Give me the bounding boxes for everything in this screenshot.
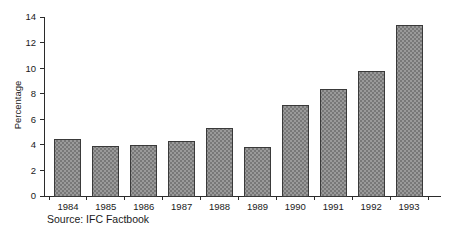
bar-1987 — [169, 142, 195, 196]
bar-chart-figure: 02468101214 1984198519861987198819891990… — [0, 0, 458, 233]
chart-canvas: 02468101214 1984198519861987198819891990… — [0, 0, 458, 233]
y-tick-label: 4 — [31, 139, 36, 150]
y-axis-title: Percentage — [12, 81, 23, 130]
x-tick-label-1986: 1986 — [133, 201, 154, 212]
y-tick-label: 6 — [31, 114, 36, 125]
x-tick-label-1989: 1989 — [247, 201, 268, 212]
x-tick-label-1987: 1987 — [171, 201, 192, 212]
bar-1991 — [320, 90, 346, 196]
y-tick-label: 0 — [31, 190, 36, 201]
chart-background — [0, 0, 458, 233]
bar-1988 — [207, 129, 233, 196]
x-tick-label-1990: 1990 — [285, 201, 306, 212]
y-tick-label: 10 — [25, 63, 36, 74]
bar-1986 — [131, 146, 157, 197]
x-tick-label-1984: 1984 — [57, 201, 78, 212]
bar-1992 — [358, 71, 384, 196]
y-tick-label: 8 — [31, 88, 36, 99]
y-tick-label: 12 — [25, 37, 36, 48]
bar-1993 — [396, 25, 422, 196]
bar-1984 — [55, 140, 81, 196]
x-tick-label-1993: 1993 — [398, 201, 419, 212]
y-tick-label: 2 — [31, 165, 36, 176]
bar-1989 — [244, 147, 270, 196]
bar-1985 — [93, 147, 119, 196]
bar-1990 — [282, 105, 308, 196]
x-tick-label-1992: 1992 — [361, 201, 382, 212]
x-tick-label-1988: 1988 — [209, 201, 230, 212]
source-note: Source: IFC Factbook — [47, 213, 150, 225]
y-tick-label: 14 — [25, 11, 36, 22]
x-tick-label-1991: 1991 — [323, 201, 344, 212]
x-tick-label-1985: 1985 — [95, 201, 116, 212]
